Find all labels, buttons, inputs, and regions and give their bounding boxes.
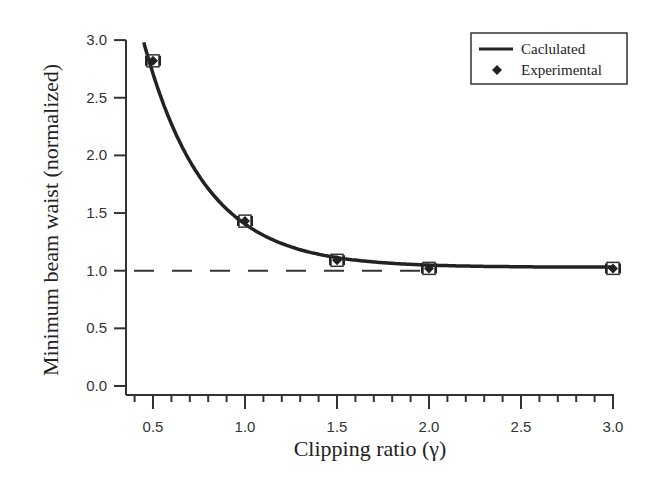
- legend: Caclulated Experimental: [471, 33, 627, 84]
- y-axis-title: Minimum beam waist (normalized): [38, 64, 63, 376]
- legend-label-experimental: Experimental: [521, 62, 602, 78]
- x-tick-label: 1.5: [327, 418, 348, 435]
- experimental-point: [606, 262, 620, 274]
- chart-canvas: 0.00.51.01.52.02.53.0 0.51.01.52.02.53.0…: [0, 0, 662, 482]
- x-tick-label: 1.0: [235, 418, 256, 435]
- y-tick-label: 2.0: [86, 146, 107, 163]
- x-tick-label: 2.0: [419, 418, 440, 435]
- x-ticks: 0.51.01.52.02.53.0: [135, 395, 624, 435]
- y-tick-label: 1.5: [86, 204, 107, 221]
- y-ticks: 0.00.51.01.52.02.53.0: [86, 31, 126, 394]
- y-tick-label: 3.0: [86, 31, 107, 48]
- x-tick-label: 0.5: [143, 418, 164, 435]
- x-axis-title: Clipping ratio (γ): [294, 436, 447, 461]
- y-tick-label: 0.0: [86, 377, 107, 394]
- axes: [126, 40, 614, 395]
- y-tick-label: 1.0: [86, 262, 107, 279]
- legend-label-calculated: Caclulated: [521, 41, 586, 57]
- x-tick-label: 3.0: [603, 418, 624, 435]
- y-tick-label: 0.5: [86, 319, 107, 336]
- x-tick-label: 2.5: [511, 418, 532, 435]
- experimental-points: [146, 55, 620, 275]
- y-tick-label: 2.5: [86, 89, 107, 106]
